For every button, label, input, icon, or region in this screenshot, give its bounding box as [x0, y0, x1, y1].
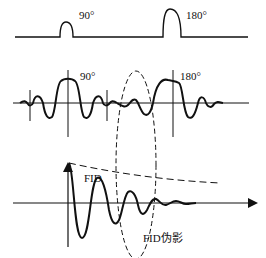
- signal-wave-2: [117, 80, 223, 118]
- echo-90-label: 90°: [80, 70, 95, 82]
- pulse-sequence: 90° 180°: [15, 9, 248, 37]
- echo-signal: 90° 180°: [13, 70, 249, 137]
- fid-label: FID: [84, 172, 102, 184]
- pulse-180-label: 180°: [186, 9, 207, 21]
- pulse-90-label: 90°: [79, 9, 94, 21]
- echo-180-label: 180°: [180, 70, 201, 82]
- fid-plot: FID FID伪影: [13, 162, 258, 247]
- pulse-baseline: [15, 9, 248, 37]
- fid-artifact-diagram: 90° 180° 90° 180° FID FID伪影: [0, 0, 266, 258]
- time-axis-arrow-icon: [248, 198, 258, 208]
- fid-artifact-label: FID伪影: [143, 232, 183, 244]
